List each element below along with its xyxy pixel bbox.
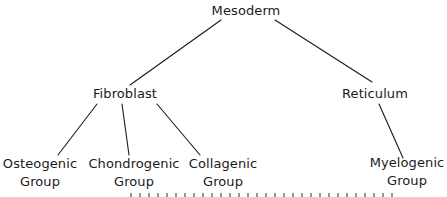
node-label-line1: Chondrogenic [88,155,179,173]
edge-mesoderm-reticulum [275,20,372,82]
edge-fibroblast-chondrogenic [122,104,129,155]
edge-fibroblast-osteogenic [58,104,97,155]
node-mesoderm: Mesoderm [212,2,281,20]
node-label-line2: Group [3,173,77,191]
edge-mesoderm-fibroblast [130,20,221,85]
node-myelogenic-group: Myelogenic Group [370,154,445,190]
node-label-line1: Myelogenic [370,154,445,172]
node-label: Fibroblast [93,85,157,103]
node-label-line2: Group [88,173,179,191]
node-fibroblast: Fibroblast [93,85,157,103]
cropped-caption-fragment [130,193,400,197]
node-label: Reticulum [342,85,408,103]
node-osteogenic-group: Osteogenic Group [3,155,77,191]
edge-fibroblast-collagenic [157,104,200,155]
node-chondrogenic-group: Chondrogenic Group [88,155,179,191]
edge-reticulum-myelogenic [379,104,403,158]
node-label-line2: Group [189,173,257,191]
node-label-line1: Collagenic [189,155,257,173]
node-label-line2: Group [370,172,445,190]
node-collagenic-group: Collagenic Group [189,155,257,191]
node-label-line1: Osteogenic [3,155,77,173]
node-reticulum: Reticulum [342,85,408,103]
node-label: Mesoderm [212,2,281,20]
